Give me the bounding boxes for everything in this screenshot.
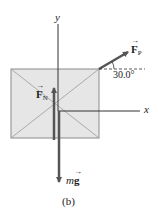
- gravity-vector-symbol: g: [74, 175, 80, 186]
- weight-label: mg: [66, 175, 79, 186]
- mass-symbol: m: [66, 174, 74, 186]
- vector-symbol: F: [36, 89, 43, 100]
- normal-force-label: FN: [36, 89, 48, 100]
- pull-force-label: FP: [131, 44, 142, 55]
- x-axis-label: x: [144, 104, 149, 115]
- y-axis-label: y: [55, 12, 60, 23]
- vector-symbol: F: [131, 44, 138, 55]
- figure-caption: (b): [62, 196, 75, 207]
- subscript: N: [43, 94, 48, 102]
- angle-arc: [112, 62, 114, 70]
- subscript: P: [138, 49, 142, 57]
- angle-label: 30.0°: [113, 70, 135, 80]
- free-body-diagram: y x FN FP 30.0° mg (b): [0, 0, 158, 212]
